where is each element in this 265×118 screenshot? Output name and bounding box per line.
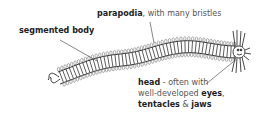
segmented-body-leader xyxy=(60,40,97,61)
head-label: head - often with well-developed eyes, t… xyxy=(138,77,225,110)
segmented-body-label: segmented body xyxy=(19,25,94,36)
tail-cirri xyxy=(48,73,60,83)
worm-head xyxy=(233,46,245,58)
parapodia-leader xyxy=(150,22,154,43)
parapodia-label: parapodia, with many bristles xyxy=(97,8,221,19)
